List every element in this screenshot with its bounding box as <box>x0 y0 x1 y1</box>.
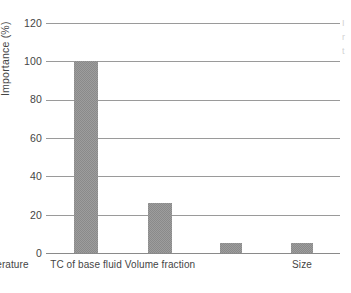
bar-volume-fraction <box>148 203 172 253</box>
gridline-120 <box>46 23 340 24</box>
y-tick-label-0: 0 <box>8 248 42 258</box>
y-tick-label-120: 120 <box>8 18 42 28</box>
bar-size <box>291 243 313 253</box>
plot-area <box>46 23 340 253</box>
margin-fragment-2: r <box>342 32 351 43</box>
y-tick-label-100: 100 <box>8 56 42 66</box>
x-label-tc-of-base-fluid: TC of base fluid <box>50 259 122 270</box>
y-tick-label-60: 60 <box>8 133 42 143</box>
y-tick-label-20: 20 <box>8 210 42 220</box>
x-label-temperature: Temperature <box>0 259 29 270</box>
margin-fragment-1: I <box>342 18 351 29</box>
y-tick-label-40: 40 <box>8 171 42 181</box>
x-axis-line <box>46 253 340 254</box>
y-tick-label-80: 80 <box>8 94 42 104</box>
x-label-size: Size <box>292 259 312 270</box>
x-label-volume-fraction: Volume fraction <box>125 259 195 270</box>
bar-tc-of-base-fluid <box>74 61 98 253</box>
bar-temperature <box>220 243 242 253</box>
margin-fragment-3: t <box>342 46 351 57</box>
figure-canvas: Importance (%) 120 100 80 60 40 20 0 TC … <box>0 0 351 293</box>
